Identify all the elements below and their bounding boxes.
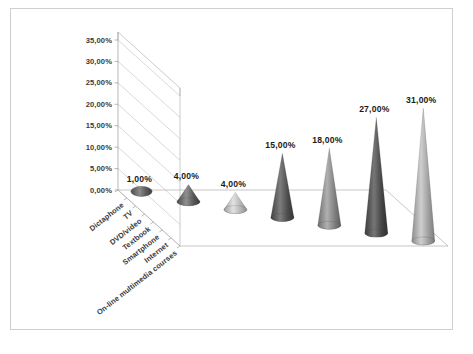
y-axis: 0,00%5,00%10,00%15,00%20,00%25,00%30,00%…	[86, 32, 118, 195]
y-axis-tick-label: 20,00%	[86, 100, 113, 109]
cone-base	[412, 237, 435, 245]
y-axis-tick-label: 10,00%	[86, 143, 113, 152]
cone-base	[271, 213, 294, 221]
y-axis-tick-label: 35,00%	[86, 36, 113, 45]
y-axis-tick-label: 0,00%	[90, 186, 112, 195]
data-label: 18,00%	[312, 135, 343, 145]
cone-0	[131, 186, 152, 196]
y-axis-tick-label: 25,00%	[86, 78, 113, 87]
data-label: 4,00%	[174, 171, 200, 181]
data-label: 4,00%	[221, 179, 247, 189]
y-axis-tick-label: 30,00%	[86, 57, 113, 66]
cone-base	[365, 229, 388, 237]
cone-4	[318, 148, 341, 229]
cone-cap	[131, 186, 152, 196]
figure-page: 0,00%5,00%10,00%15,00%20,00%25,00%30,00%…	[0, 0, 473, 354]
y-axis-tick-label: 5,00%	[90, 164, 112, 173]
cone-body	[271, 153, 294, 221]
cone-base	[177, 198, 200, 206]
category-axis-labels: DictaphoneTVDVD/videoTextbookSmartphoneI…	[88, 190, 180, 317]
cone-5	[365, 117, 388, 237]
chart-canvas: 0,00%5,00%10,00%15,00%20,00%25,00%30,00%…	[10, 8, 453, 330]
cone-body	[412, 108, 435, 245]
data-label: 31,00%	[406, 95, 437, 105]
y-axis-tick-label: 15,00%	[86, 121, 113, 130]
cone-body	[365, 117, 388, 237]
cone-chart-3d: 0,00%5,00%10,00%15,00%20,00%25,00%30,00%…	[10, 8, 453, 330]
cone-base	[224, 206, 247, 214]
cone-3	[271, 153, 294, 221]
data-label: 15,00%	[265, 140, 296, 150]
figure-caption	[0, 336, 473, 354]
cone-6	[412, 108, 435, 245]
data-label: 27,00%	[359, 104, 390, 114]
cone-2	[224, 192, 247, 213]
cone-1	[177, 185, 200, 206]
cone-body	[318, 148, 341, 229]
data-label: 1,00%	[127, 174, 153, 184]
category-label: On-line multimedia courses	[95, 248, 179, 316]
category-label: Dictaphone	[88, 200, 126, 232]
cone-base	[318, 221, 341, 229]
